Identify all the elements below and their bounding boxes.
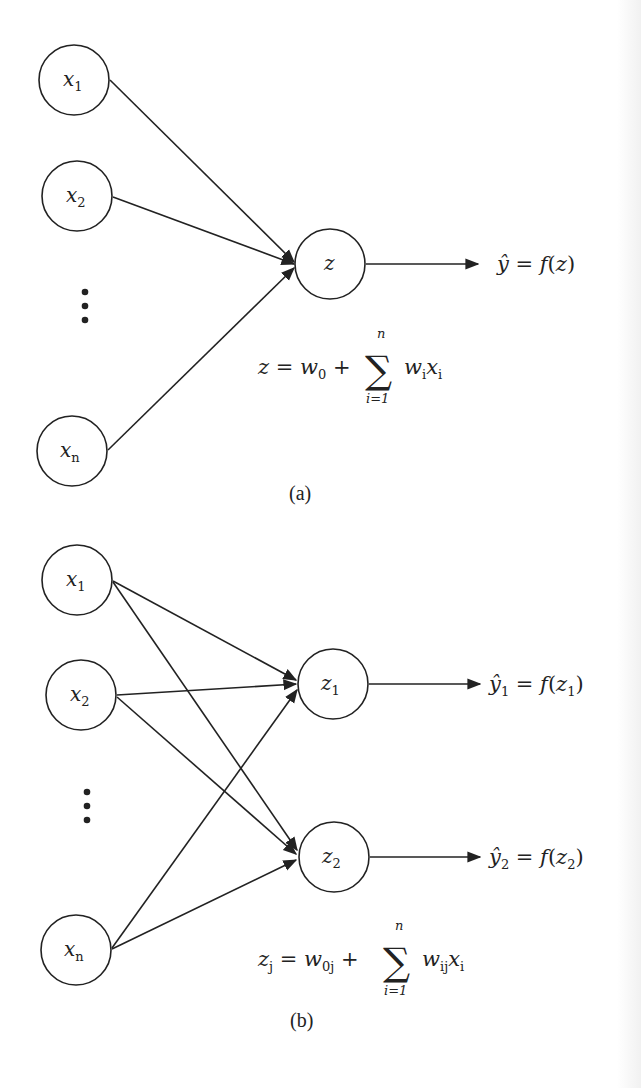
svg-text:i=1: i=1 [384,983,407,998]
svg-text:∑: ∑ [383,940,410,984]
ellipsis-dots [84,789,91,824]
panel-a: x1 x2 xn z ŷ = f(z) z = w0 + ∑ n i=1 [37,45,575,505]
svg-text:z = w0 +: z = w0 + [257,355,351,382]
neuron-node-z1: z1 [298,649,368,719]
input-node-x1: x1 [39,45,109,115]
output-label-1: ŷ1 = f(z1) [488,672,584,699]
edge-x2-to-z [113,197,294,264]
edge-x1-to-z [110,80,294,262]
input-node-x2: x2 [42,161,112,231]
svg-text:wixi: wixi [404,355,442,382]
edge-x1-to-z1 [113,581,296,680]
svg-text:wijxi: wijxi [422,947,464,974]
weighted-sum-formula: z = w0 + ∑ n i=1 wixi [257,326,442,406]
input-node-xn: xn [41,915,111,985]
panel-b: x1 x2 xn z1 z2 ŷ1 = f(z1) ŷ2 = f(z2) [41,545,584,1032]
svg-text:n: n [395,918,403,933]
weighted-sum-formula: zj = w0j + ∑ n i=1 wijxi [257,918,464,998]
input-node-x1: x1 [42,545,112,615]
svg-text:i=1: i=1 [366,391,389,406]
input-node-xn: xn [37,416,107,486]
svg-text:n: n [377,326,385,341]
svg-text:∑: ∑ [365,348,392,392]
edge-x2-to-z2 [117,697,296,854]
edge-x1-to-z2 [113,582,297,850]
output-label: ŷ = f(z) [496,252,575,276]
edge-xn-to-z2 [112,860,296,949]
neuron-node-z: z [295,229,365,299]
edge-x2-to-z1 [117,684,296,695]
output-label-2: ŷ2 = f(z2) [488,845,584,872]
svg-text:z: z [323,251,335,275]
ellipsis-dots [82,289,89,324]
caption-b: (b) [290,1009,313,1032]
perceptron-diagram: x1 x2 xn z ŷ = f(z) z = w0 + ∑ n i=1 [0,0,641,1088]
edge-xn-to-z1 [112,690,297,948]
svg-text:zj = w0j +: zj = w0j + [257,947,359,974]
caption-a: (a) [289,482,311,505]
neuron-node-z2: z2 [299,822,369,892]
input-node-x2: x2 [46,660,116,730]
